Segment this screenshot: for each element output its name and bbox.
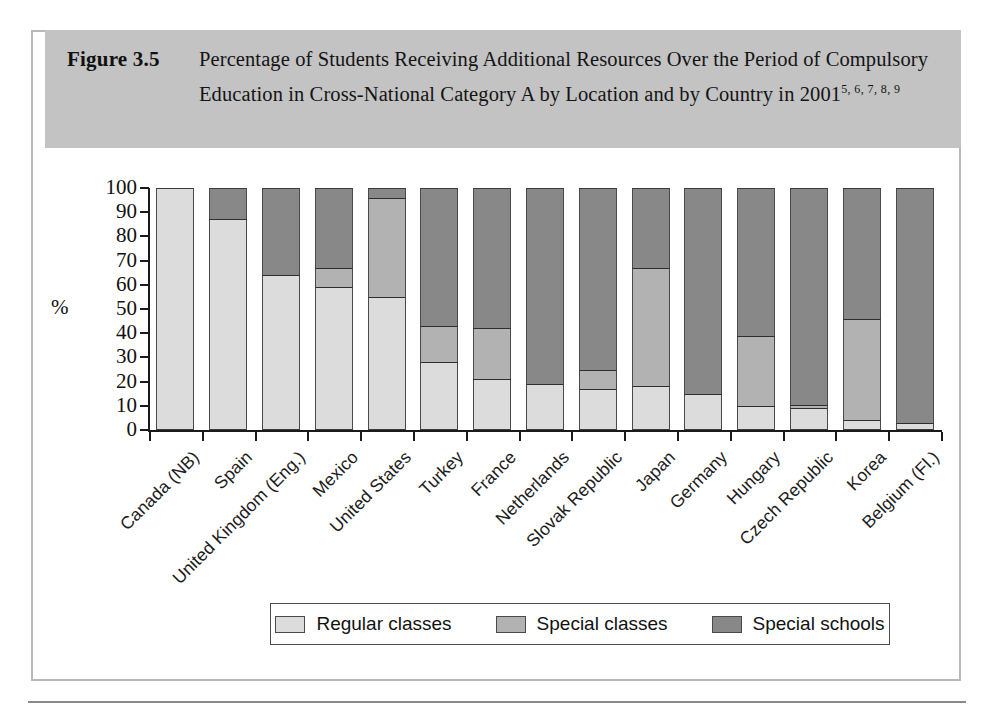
page-title: Percentage of Students Receiving Additio… (199, 44, 939, 109)
bar-segment-special_schools[interactable] (896, 188, 934, 423)
bar-segment-regular[interactable] (579, 389, 617, 430)
bar-segment-regular[interactable] (473, 379, 511, 430)
bar-stack[interactable] (896, 188, 934, 430)
bar-stack[interactable] (473, 188, 511, 430)
bar-segment-regular[interactable] (156, 188, 194, 430)
y-axis-title: % (51, 295, 69, 320)
bar-segment-special_schools[interactable] (368, 188, 406, 198)
x-axis-tick (624, 432, 626, 441)
bar-segment-regular[interactable] (737, 406, 775, 430)
legend-item[interactable]: Special schools (712, 613, 885, 635)
bar-segment-regular[interactable] (209, 219, 247, 430)
legend-item[interactable]: Special classes (496, 613, 668, 635)
x-axis-tick (255, 432, 257, 441)
bar-segment-special_classes[interactable] (579, 370, 617, 389)
figure-title-superscript: 5, 6, 7, 8, 9 (841, 82, 900, 96)
bar-stack[interactable] (315, 188, 353, 430)
y-axis-tick-label: 50 (95, 298, 137, 319)
x-axis-tick (730, 432, 732, 441)
bar-segment-regular[interactable] (632, 386, 670, 430)
bar-stack[interactable] (684, 188, 722, 430)
x-axis-tick-label: Czech Republic (735, 447, 838, 550)
bar-segment-special_schools[interactable] (843, 188, 881, 319)
bar-stack[interactable] (262, 188, 300, 430)
bottom-divider (28, 701, 966, 703)
bar-segment-regular[interactable] (526, 384, 564, 430)
figure-number-label: Figure 3.5 (67, 44, 199, 74)
x-axis-tick (888, 432, 890, 441)
y-axis-tick-label: 90 (95, 201, 137, 222)
x-axis-tick (466, 432, 468, 441)
bar-segment-regular[interactable] (368, 297, 406, 430)
bar-segment-special_schools[interactable] (632, 188, 670, 268)
bar-segment-special_schools[interactable] (315, 188, 353, 268)
figure-title-band: Figure 3.5 Percentage of Students Receiv… (45, 30, 961, 148)
bar-stack[interactable] (156, 188, 194, 430)
bar-segment-regular[interactable] (790, 408, 828, 430)
x-axis-tick-label: Canada (NB) (116, 447, 204, 535)
bar-segment-special_schools[interactable] (579, 188, 617, 370)
bar-segment-regular[interactable] (896, 423, 934, 430)
x-axis-tick-label: Japan (631, 447, 680, 496)
bar-stack[interactable] (790, 188, 828, 430)
y-axis-tick-label: 20 (95, 371, 137, 392)
bar-segment-special_schools[interactable] (420, 188, 458, 326)
x-axis-tick-label: Turkey (416, 447, 469, 500)
bar-segment-special_classes[interactable] (368, 198, 406, 297)
x-axis-line (148, 430, 942, 432)
x-axis-tick-label: Germany (666, 447, 732, 513)
y-axis-tick-label: 40 (95, 322, 137, 343)
legend-item[interactable]: Regular classes (275, 613, 451, 635)
bar-stack[interactable] (579, 188, 617, 430)
legend-swatch-icon (496, 616, 526, 633)
bar-stack[interactable] (737, 188, 775, 430)
legend-swatch-icon (712, 616, 742, 633)
y-axis-labels: 0102030405060708090100 (85, 155, 137, 445)
x-axis-tick (149, 432, 151, 441)
y-axis-tick-label: 70 (95, 250, 137, 271)
bar-segment-special_schools[interactable] (737, 188, 775, 336)
bar-segment-special_schools[interactable] (262, 188, 300, 275)
bar-segment-special_schools[interactable] (473, 188, 511, 328)
x-axis-tick (783, 432, 785, 441)
bar-segment-special_classes[interactable] (420, 326, 458, 362)
y-axis-tick-label: 10 (95, 395, 137, 416)
x-axis-tick (307, 432, 309, 441)
bar-segment-special_schools[interactable] (684, 188, 722, 394)
bar-stack[interactable] (526, 188, 564, 430)
bar-segment-special_classes[interactable] (315, 268, 353, 287)
bar-segment-regular[interactable] (684, 394, 722, 430)
bar-segment-special_schools[interactable] (790, 188, 828, 405)
x-axis-tick (677, 432, 679, 441)
bar-stack[interactable] (420, 188, 458, 430)
legend-label: Special schools (753, 613, 885, 635)
bar-segment-regular[interactable] (420, 362, 458, 430)
figure-title-text: Percentage of Students Receiving Additio… (199, 48, 928, 105)
x-axis-tick (360, 432, 362, 441)
x-axis-tick (413, 432, 415, 441)
y-axis-tick-label: 0 (95, 419, 137, 440)
x-axis-tick (571, 432, 573, 441)
y-axis-tick-label: 60 (95, 274, 137, 295)
bar-segment-regular[interactable] (315, 287, 353, 430)
bar-stack[interactable] (368, 188, 406, 430)
y-axis-tick-label: 30 (95, 346, 137, 367)
bar-segment-regular[interactable] (843, 420, 881, 430)
bar-segment-special_classes[interactable] (737, 336, 775, 406)
bar-segment-regular[interactable] (262, 275, 300, 430)
x-axis-tick (202, 432, 204, 441)
bar-stack[interactable] (209, 188, 247, 430)
x-axis-tick-label: Spain (210, 447, 257, 494)
bar-stack[interactable] (843, 188, 881, 430)
bar-segment-special_classes[interactable] (473, 328, 511, 379)
x-axis-tick (519, 432, 521, 441)
bar-segment-special_schools[interactable] (526, 188, 564, 384)
y-axis-tick-label: 100 (95, 177, 137, 198)
bar-segment-special_classes[interactable] (632, 268, 670, 387)
bar-segment-special_classes[interactable] (843, 319, 881, 421)
legend-swatch-icon (275, 616, 305, 633)
bar-segment-special_schools[interactable] (209, 188, 247, 219)
x-axis-tick (835, 432, 837, 441)
title-row: Figure 3.5 Percentage of Students Receiv… (67, 44, 939, 109)
bar-stack[interactable] (632, 188, 670, 430)
